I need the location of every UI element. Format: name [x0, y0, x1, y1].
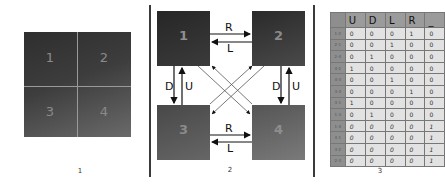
- row-label: 1-2: [331, 28, 346, 40]
- table-cell: 0: [365, 74, 385, 86]
- edge-label-4-3: L: [227, 142, 233, 155]
- table-cell: 0: [345, 39, 365, 51]
- column-header-none: _: [425, 13, 445, 28]
- table-cell: 0: [385, 97, 405, 109]
- table-cell: 0: [405, 51, 425, 63]
- table-row: 4-300100: [331, 74, 445, 86]
- table-cell: 0: [425, 85, 445, 97]
- edge-label-3-4: R: [225, 122, 233, 135]
- table-cell: 1: [365, 109, 385, 121]
- table-cell: 0: [425, 39, 445, 51]
- table-cell: 0: [345, 109, 365, 121]
- table-cell: 1: [365, 51, 385, 63]
- table-cell: 1: [345, 97, 365, 109]
- edge-label-1-2: R: [225, 21, 233, 34]
- table-cell: 0: [425, 62, 445, 74]
- table-cell: 0: [405, 109, 425, 121]
- table-cell: 0: [425, 97, 445, 109]
- row-label: 3-4: [331, 85, 346, 97]
- table-cell: 0: [405, 143, 425, 155]
- table-cell: 0: [385, 62, 405, 74]
- table-cell: 1: [425, 120, 445, 132]
- row-label: 4-2: [331, 62, 346, 74]
- row-label: 2-3: [331, 155, 346, 167]
- table-cell: 0: [345, 74, 365, 86]
- column-header-u: U: [345, 13, 365, 28]
- edge-label-2-1: L: [227, 42, 233, 55]
- table-cell: 0: [365, 62, 385, 74]
- row-label: 1-4: [331, 120, 346, 132]
- table-cell: 0: [345, 132, 365, 144]
- table-cell: 0: [425, 109, 445, 121]
- table-header-row: U D L R _: [331, 13, 445, 28]
- table-cell: 1: [425, 155, 445, 167]
- table-cell: 0: [405, 74, 425, 86]
- table-cell: 0: [385, 51, 405, 63]
- transition-table: U D L R _ 1-2000102-1001002-4010004-2100…: [330, 12, 445, 167]
- table-row: 3-200001: [331, 143, 445, 155]
- table-cell: 0: [365, 85, 385, 97]
- column-header-r: R: [405, 13, 425, 28]
- table-cell: 0: [345, 143, 365, 155]
- table-cell: 0: [385, 155, 405, 167]
- table-cell: 0: [425, 28, 445, 40]
- table-row: 2-100100: [331, 39, 445, 51]
- table-cell: 0: [405, 62, 425, 74]
- row-label: 4-3: [331, 74, 346, 86]
- table-cell: 0: [405, 39, 425, 51]
- table-cell: 0: [365, 39, 385, 51]
- row-label: 3-1: [331, 97, 346, 109]
- table-cell: 1: [385, 74, 405, 86]
- table-cell: 0: [385, 143, 405, 155]
- table-cell: 0: [345, 51, 365, 63]
- table-cell: 0: [345, 155, 365, 167]
- column-header-d: D: [365, 13, 385, 28]
- table-row: 2-401000: [331, 51, 445, 63]
- table-cell: 0: [365, 132, 385, 144]
- row-label: 2-4: [331, 51, 346, 63]
- table-cell: 1: [425, 143, 445, 155]
- panel-caption-3: 3: [370, 167, 390, 175]
- table-cell: 0: [365, 28, 385, 40]
- table-cell: 0: [405, 155, 425, 167]
- table-row: 4-100001: [331, 132, 445, 144]
- table-cell: 0: [405, 97, 425, 109]
- edge-label-4-2: U: [292, 80, 300, 93]
- column-header-l: L: [385, 13, 405, 28]
- table-cell: 0: [385, 120, 405, 132]
- edge-label-3-1: U: [185, 80, 193, 93]
- table-cell: 0: [385, 28, 405, 40]
- table-corner: [331, 13, 346, 28]
- panel-divider-2: [313, 5, 315, 177]
- edge-label-2-4: D: [272, 80, 280, 93]
- table-cell: 0: [345, 28, 365, 40]
- table-cell: 0: [365, 143, 385, 155]
- table-cell: 0: [405, 120, 425, 132]
- table-cell: 1: [345, 62, 365, 74]
- row-label: 3-2: [331, 143, 346, 155]
- table-cell: 1: [405, 85, 425, 97]
- row-label: 1-3: [331, 109, 346, 121]
- table-row: 3-110000: [331, 97, 445, 109]
- table-row: 2-300001: [331, 155, 445, 167]
- table-cell: 0: [365, 97, 385, 109]
- table-row: 1-301000: [331, 109, 445, 121]
- panel-caption-2: 2: [220, 166, 240, 174]
- table-cell: 0: [365, 120, 385, 132]
- row-label: 4-1: [331, 132, 346, 144]
- row-label: 2-1: [331, 39, 346, 51]
- edge-label-1-3: D: [165, 80, 173, 93]
- table-cell: 0: [345, 85, 365, 97]
- table-cell: 1: [425, 132, 445, 144]
- table-cell: 0: [385, 132, 405, 144]
- table-cell: 0: [405, 132, 425, 144]
- table-cell: 0: [365, 155, 385, 167]
- table-cell: 0: [425, 74, 445, 86]
- table-cell: 0: [345, 120, 365, 132]
- table-row: 4-210000: [331, 62, 445, 74]
- table-row: 3-400010: [331, 85, 445, 97]
- table-cell: 0: [425, 51, 445, 63]
- table-cell: 0: [385, 109, 405, 121]
- table-cell: 1: [385, 39, 405, 51]
- table-cell: 0: [385, 85, 405, 97]
